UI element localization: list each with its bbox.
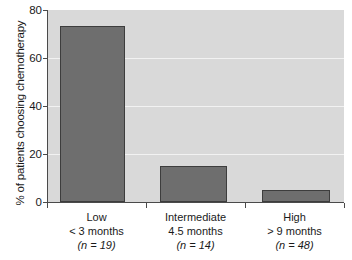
x-category-name-high: High	[245, 210, 344, 224]
x-category-count-intermediate: (n = 14)	[146, 238, 245, 252]
x-tick-mark-0	[47, 203, 48, 208]
x-category-name-intermediate: Intermediate	[146, 210, 245, 224]
x-category-count-high: (n = 48)	[245, 238, 344, 252]
x-tick-mark-2	[245, 203, 246, 208]
plot-area	[47, 10, 344, 202]
y-axis-tick-labels: 80 60 40 20 0	[20, 0, 42, 260]
bar-high	[262, 190, 330, 202]
x-category-label-low: Low < 3 months (n = 19)	[47, 210, 146, 252]
x-tick-mark-1	[146, 203, 147, 208]
y-tick-label-20: 20	[20, 149, 42, 159]
y-tick-label-80: 80	[20, 5, 42, 15]
y-tick-label-40: 40	[20, 101, 42, 111]
bar-chart-figure: % of patients choosing chemotherapy 80 6…	[0, 0, 352, 260]
x-category-label-intermediate: Intermediate 4.5 months (n = 14)	[146, 210, 245, 252]
bar-intermediate	[160, 166, 227, 202]
y-tick-label-0: 0	[20, 197, 42, 207]
x-tick-mark-3	[344, 203, 345, 208]
x-category-duration-high: > 9 months	[245, 224, 344, 238]
y-axis-line	[47, 10, 48, 203]
bar-low	[60, 26, 125, 202]
x-category-label-high: High > 9 months (n = 48)	[245, 210, 344, 252]
x-category-duration-intermediate: 4.5 months	[146, 224, 245, 238]
x-category-duration-low: < 3 months	[47, 224, 146, 238]
x-category-count-low: (n = 19)	[47, 238, 146, 252]
x-axis-line	[47, 202, 344, 203]
y-tick-label-60: 60	[20, 53, 42, 63]
x-category-name-low: Low	[47, 210, 146, 224]
